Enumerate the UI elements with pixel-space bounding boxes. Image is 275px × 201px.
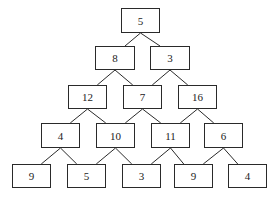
pyramid-node: 9	[174, 164, 213, 188]
connector-line	[152, 70, 170, 85]
pyramid-node: 4	[41, 123, 80, 148]
pyramid-node: 7	[123, 85, 162, 109]
pyramid-node: 3	[150, 46, 190, 70]
pyramid-node: 3	[122, 164, 161, 188]
pyramid-node: 5	[121, 8, 160, 33]
pyramid-node: 9	[12, 164, 51, 188]
number-pyramid-diagram: 5831271641011695394	[0, 0, 275, 201]
connector-line	[125, 33, 141, 46]
pyramid-node: 10	[96, 123, 135, 148]
connector-line	[97, 70, 115, 85]
pyramid-node: 6	[204, 123, 243, 148]
connector-line	[180, 109, 197, 123]
connector-line	[125, 109, 142, 123]
connector-line	[143, 109, 161, 123]
pyramid-node: 16	[178, 85, 217, 109]
pyramid-node: 12	[68, 85, 107, 109]
pyramid-node: 8	[95, 46, 135, 70]
connector-line	[198, 109, 214, 123]
connector-line	[141, 33, 161, 46]
connector-line	[41, 148, 60, 164]
connector-line	[61, 148, 77, 164]
pyramid-node: 4	[228, 164, 267, 188]
connector-line	[70, 109, 87, 123]
pyramid-node: 5	[67, 164, 106, 188]
connector-line	[151, 148, 170, 164]
connector-line	[203, 148, 223, 164]
connector-line	[96, 148, 115, 164]
pyramid-node: 11	[151, 123, 190, 148]
connector-line	[116, 148, 132, 164]
connector-line	[171, 148, 184, 164]
connector-line	[224, 148, 238, 164]
connector-line	[170, 70, 188, 85]
connector-line	[88, 109, 106, 123]
connector-line	[115, 70, 133, 85]
